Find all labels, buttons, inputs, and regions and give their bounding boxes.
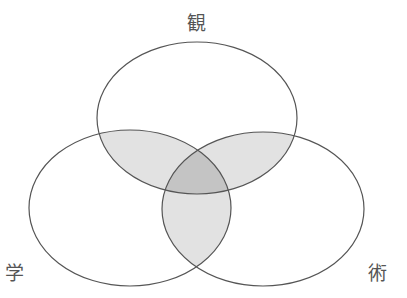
label-left: 学 — [5, 264, 24, 283]
venn-diagram — [0, 0, 407, 298]
label-right: 術 — [368, 264, 387, 283]
label-top: 観 — [187, 14, 206, 33]
